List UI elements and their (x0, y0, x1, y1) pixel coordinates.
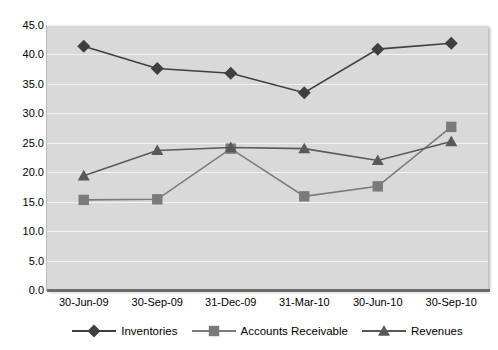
legend-entry[interactable]: Inventories (72, 324, 177, 338)
series-overlay (47, 25, 488, 290)
legend-entry[interactable]: Accounts Receivable (192, 324, 348, 338)
y-axis-tick-label: 20.0 (2, 166, 44, 178)
legend-diamond-icon (72, 324, 116, 338)
y-axis-tick-label: 15.0 (2, 196, 44, 208)
legend-square-icon (192, 324, 236, 338)
data-point-diamond (298, 86, 311, 99)
y-axis-tick-label: 10.0 (2, 225, 44, 237)
data-point-diamond (445, 37, 458, 50)
y-axis-tick-label: 35.0 (2, 78, 44, 90)
y-axis-line (46, 25, 47, 291)
series-revenues (78, 136, 458, 181)
data-point-diamond (151, 62, 164, 75)
y-axis-tick-label: 5.0 (2, 255, 44, 267)
legend-label: Revenues (411, 325, 463, 337)
series-line (84, 43, 452, 92)
series-accounts-receivable (79, 122, 457, 205)
x-axis-tick-label: 30-Jun-09 (59, 296, 109, 308)
series-line (84, 127, 452, 200)
y-axis-tick-label: 0.0 (2, 284, 44, 296)
data-point-diamond (224, 67, 237, 80)
data-point-square (299, 191, 309, 201)
x-axis-labels: 30-Jun-0930-Sep-0931-Dec-0931-Mar-1030-J… (47, 296, 488, 314)
legend-label: Accounts Receivable (241, 325, 348, 337)
x-axis-tick-label: 31-Dec-09 (205, 296, 256, 308)
data-point-diamond (77, 40, 90, 53)
data-point-square (79, 195, 89, 205)
line-chart: 45.040.035.030.025.020.015.010.05.00.0 3… (0, 0, 498, 350)
data-point-diamond (371, 43, 384, 56)
x-axis-tick-label: 30-Jun-10 (353, 296, 403, 308)
data-point-square (446, 122, 456, 132)
legend-label: Inventories (121, 325, 177, 337)
x-axis-tick-label: 31-Mar-10 (279, 296, 330, 308)
data-point-square (152, 194, 162, 204)
plot-area (47, 25, 488, 290)
y-axis-tick-label: 45.0 (2, 19, 44, 31)
x-axis-tick-label: 30-Sep-10 (426, 296, 477, 308)
y-axis-tick-label: 30.0 (2, 107, 44, 119)
y-axis-tick-label: 40.0 (2, 48, 44, 60)
data-point-triangle (445, 136, 457, 147)
data-point-square (373, 181, 383, 191)
x-axis-tick-label: 30-Sep-09 (132, 296, 183, 308)
legend-triangle-icon (362, 324, 406, 338)
x-axis-line (47, 289, 490, 292)
legend-entry[interactable]: Revenues (362, 324, 463, 338)
y-axis-labels: 45.040.035.030.025.020.015.010.05.00.0 (0, 0, 44, 350)
y-axis-tick-label: 25.0 (2, 137, 44, 149)
chart-legend: InventoriesAccounts ReceivableRevenues (47, 320, 488, 342)
series-inventories (77, 37, 458, 99)
